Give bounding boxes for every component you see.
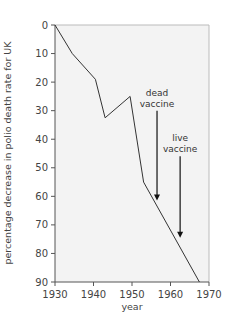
x-tick-label: 1970 bbox=[196, 289, 221, 300]
x-tick-label: 1930 bbox=[42, 289, 67, 300]
y-tick-label: 10 bbox=[35, 48, 48, 59]
annotation-text: vaccine bbox=[140, 99, 175, 109]
y-tick-label: 0 bbox=[42, 20, 48, 31]
y-tick-label: 30 bbox=[35, 105, 48, 116]
x-axis: 19301940195019601970 bbox=[42, 282, 221, 300]
y-tick-label: 70 bbox=[35, 219, 48, 230]
annotation-text: live bbox=[172, 133, 188, 143]
x-tick-label: 1960 bbox=[158, 289, 183, 300]
y-axis: 0102030405060708090 bbox=[35, 20, 55, 288]
x-tick-label: 1940 bbox=[81, 289, 106, 300]
line-chart: 0102030405060708090 19301940195019601970… bbox=[0, 0, 227, 333]
y-tick-label: 80 bbox=[35, 248, 48, 259]
y-axis-label: percentage decrease in polio death rate … bbox=[2, 41, 13, 265]
x-tick-label: 1950 bbox=[119, 289, 144, 300]
y-tick-label: 60 bbox=[35, 191, 48, 202]
y-tick-label: 90 bbox=[35, 277, 48, 288]
annotation-text: dead bbox=[146, 88, 168, 98]
y-tick-label: 20 bbox=[35, 77, 48, 88]
annotation-text: vaccine bbox=[163, 144, 198, 154]
y-tick-label: 50 bbox=[35, 162, 48, 173]
x-axis-label: year bbox=[121, 301, 142, 312]
y-tick-label: 40 bbox=[35, 134, 48, 145]
